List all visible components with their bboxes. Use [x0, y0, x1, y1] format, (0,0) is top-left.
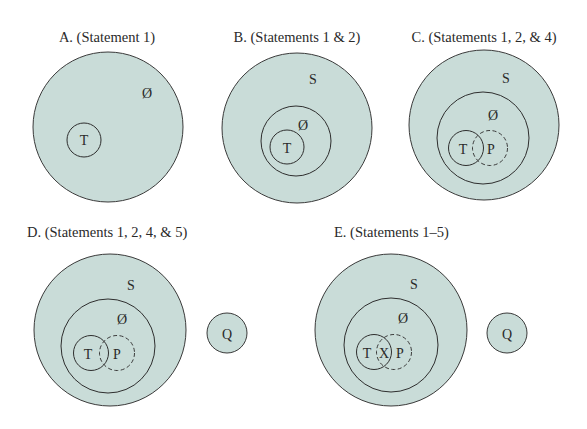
set-p-label: P [113, 347, 121, 362]
set-s-label: S [127, 278, 135, 293]
empty-set-label: Ø [488, 108, 498, 123]
set-p-label: P [396, 346, 404, 361]
set-s-label: S [410, 277, 418, 292]
panel-a: A. (Statement 1) Ø T [33, 29, 183, 202]
set-s-label: S [309, 72, 317, 87]
panel-c: C. (Statements 1, 2, & 4) S Ø T P [409, 29, 559, 200]
intersection-x-label: X [379, 346, 389, 361]
panel-e: E. (Statements 1–5) S Ø T X P Q [315, 224, 527, 406]
panel-a-title: A. (Statement 1) [59, 29, 155, 46]
set-s-circle [34, 254, 186, 406]
empty-set-label: Ø [117, 312, 127, 327]
panel-e-title: E. (Statements 1–5) [334, 224, 449, 241]
panel-d: D. (Statements 1, 2, 4, & 5) S Ø T P Q [27, 224, 247, 406]
set-t-label: T [283, 141, 292, 156]
panel-b: B. (Statements 1 & 2) S Ø T [222, 29, 372, 203]
set-t-label: T [84, 347, 93, 362]
panel-c-title: C. (Statements 1, 2, & 4) [412, 29, 557, 46]
set-q-label: Q [502, 327, 512, 342]
set-q-label: Q [222, 327, 232, 342]
set-p-label: P [487, 142, 495, 157]
panel-d-title: D. (Statements 1, 2, 4, & 5) [27, 224, 187, 241]
set-t-label: T [459, 142, 468, 157]
panel-b-title: B. (Statements 1 & 2) [234, 29, 361, 46]
set-s-label: S [502, 71, 510, 86]
set-t-label: T [80, 133, 89, 148]
empty-set-label: Ø [398, 311, 408, 326]
empty-set-label: Ø [298, 118, 308, 133]
set-universe-circle [33, 52, 183, 202]
set-t-label: T [363, 346, 372, 361]
set-s-circle [409, 50, 559, 200]
empty-set-label: Ø [142, 86, 152, 101]
set-s-circle [315, 254, 467, 406]
venn-diagram-figure: A. (Statement 1) Ø T B. (Statements 1 & … [0, 0, 587, 429]
